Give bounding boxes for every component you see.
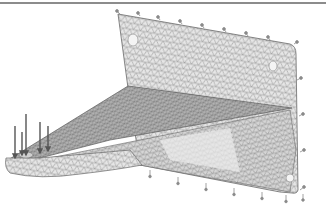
hole-icon [128, 34, 138, 46]
hole-icon [286, 174, 294, 182]
hole-icon [269, 61, 277, 71]
fea-mesh-figure [0, 0, 332, 214]
